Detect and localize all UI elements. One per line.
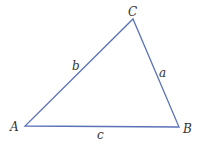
side-label-a: a [159,66,166,80]
vertex-label-b: B [182,122,192,136]
side-label-b: b [72,59,80,73]
side-label-c: c [97,128,104,142]
vertex-label-a: A [9,120,19,134]
triangle-diagram: A B C a b c [0,0,201,147]
triangle-shape [25,19,179,127]
vertex-label-c: C [128,5,137,19]
